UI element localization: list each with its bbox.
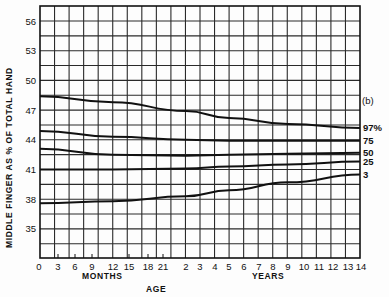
y-tick-label: 35 [25, 223, 36, 234]
x-tick-label: 3 [197, 261, 202, 272]
x-tick-label: 4 [212, 261, 217, 272]
x-tick-label: 14 [356, 261, 367, 272]
x-sublabel-months: MONTHS [82, 271, 122, 281]
y-tick-label: 53 [25, 45, 36, 56]
percentile-chart: 3538414447505356 03691215182123456789101… [0, 0, 389, 297]
series-label: 25 [363, 156, 374, 167]
x-tick-label: 21 [158, 261, 169, 272]
x-tick-label: 10 [299, 261, 310, 272]
series-label: 97% [363, 122, 383, 133]
y-tick-label: 47 [25, 105, 36, 116]
x-tick-label: 3 [55, 261, 60, 272]
x-tick-label: 6 [72, 261, 77, 272]
x-tick-label: 13 [343, 261, 354, 272]
panel-label: (b) [362, 95, 374, 106]
y-tick-label: 38 [25, 194, 36, 205]
x-tick-label: 0 [36, 261, 41, 272]
x-axis-title: AGE [146, 284, 166, 294]
y-tick-label: 56 [25, 16, 36, 27]
x-tick-label: 9 [285, 261, 290, 272]
x-tick-label: 15 [124, 261, 135, 272]
x-tick-label: 6 [241, 261, 246, 272]
y-tick-label: 50 [25, 75, 36, 86]
x-tick-label: 12 [328, 261, 339, 272]
series-labels: 97%7550253 [363, 122, 383, 180]
y-tick-label: 41 [25, 164, 36, 175]
x-tick-label: 2 [183, 261, 188, 272]
x-tick-label: 5 [226, 261, 231, 272]
series-label: 75 [363, 135, 374, 146]
x-tick-label: 18 [143, 261, 154, 272]
x-tick-label: 11 [314, 261, 324, 272]
y-axis-title: MIDDLE FINGER AS % OF TOTAL HAND [4, 67, 14, 248]
series-label: 3 [363, 169, 368, 180]
y-axis-ticks: 3538414447505356 [25, 16, 36, 235]
x-sublabel-years: YEARS [252, 271, 284, 281]
y-tick-label: 44 [25, 134, 36, 145]
grid [40, 6, 360, 258]
